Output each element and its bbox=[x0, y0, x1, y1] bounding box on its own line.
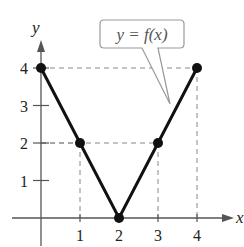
graph-line bbox=[41, 68, 197, 218]
x-tick-label: 1 bbox=[76, 227, 84, 244]
ticks: 12341234 bbox=[20, 60, 201, 244]
data-point bbox=[75, 138, 85, 148]
y-tick-label: 2 bbox=[20, 135, 28, 152]
callout: y = f(x) bbox=[100, 20, 184, 104]
y-tick-label: 4 bbox=[20, 60, 28, 77]
function-graph: x y 12341234 y = f(x) bbox=[0, 0, 244, 247]
data-point bbox=[153, 138, 163, 148]
dashed-guides bbox=[41, 68, 197, 218]
data-point bbox=[114, 213, 124, 223]
y-tick-label: 3 bbox=[20, 98, 28, 115]
x-axis-arrow-icon bbox=[222, 214, 234, 222]
x-tick-label: 3 bbox=[154, 227, 162, 244]
x-axis-label: x bbox=[235, 208, 244, 227]
axes: x y bbox=[12, 18, 244, 246]
callout-label: y = f(x) bbox=[114, 25, 167, 44]
data-point bbox=[192, 63, 202, 73]
y-axis-label: y bbox=[30, 18, 40, 37]
y-tick-label: 1 bbox=[20, 173, 28, 190]
data-point bbox=[36, 63, 46, 73]
x-tick-label: 2 bbox=[115, 227, 123, 244]
x-tick-label: 4 bbox=[193, 227, 201, 244]
y-axis-arrow-icon bbox=[37, 40, 45, 52]
